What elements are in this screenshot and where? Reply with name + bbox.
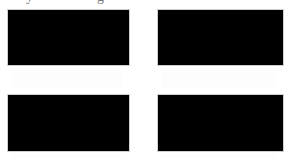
cutoff-heading-text: y g	[0, 0, 284, 9]
caption-bottom-right	[162, 154, 276, 158]
thumbnail-top-left[interactable]	[7, 9, 130, 66]
caption-bottom-left	[12, 154, 122, 158]
thumbnail-bottom-left[interactable]	[7, 94, 130, 152]
thumbnail-top-right[interactable]	[157, 9, 284, 66]
cutoff-glyph-right: g	[97, 0, 104, 5]
thumbnail-bottom-right[interactable]	[157, 94, 284, 152]
caption-top-right	[162, 70, 276, 88]
caption-top-left	[12, 70, 122, 88]
cutoff-glyph-left: y	[26, 0, 33, 5]
